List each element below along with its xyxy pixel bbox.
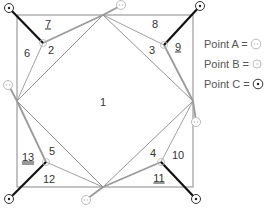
region-9-label: 9 <box>175 42 181 53</box>
region-7-label: 7 <box>45 19 51 30</box>
point-a-top <box>117 1 126 10</box>
region-1-label: 1 <box>100 97 106 108</box>
region-11-label: 11 <box>153 173 164 184</box>
point-a-bottom <box>82 196 91 205</box>
point-b-icon <box>251 58 263 70</box>
region-13-label: 13 <box>22 152 34 163</box>
region-4-label: 4 <box>150 148 156 159</box>
legend-item-point-a: Point A = <box>204 34 264 54</box>
region-6-label: 6 <box>24 48 30 59</box>
folding-diagram <box>0 0 264 211</box>
legend-item-point-b: Point B = <box>204 54 264 74</box>
point-a-right <box>192 118 201 127</box>
point-c-icon <box>252 78 264 90</box>
region-3-label: 3 <box>149 45 155 56</box>
region-5-label: 5 <box>49 146 55 157</box>
legend-item-point-c: Point C = <box>204 74 264 94</box>
legend-label: Point A = <box>204 38 248 50</box>
region-8-label: 8 <box>152 19 158 30</box>
region-10-label: 10 <box>172 150 184 161</box>
point-a-left <box>4 81 13 90</box>
region-12-label: 12 <box>43 174 55 185</box>
point-a-icon <box>250 38 262 50</box>
legend: Point A = Point B = Point C = <box>204 34 264 94</box>
legend-label: Point B = <box>204 58 249 70</box>
region-2-label: 2 <box>48 45 54 56</box>
legend-label: Point C = <box>204 78 250 90</box>
